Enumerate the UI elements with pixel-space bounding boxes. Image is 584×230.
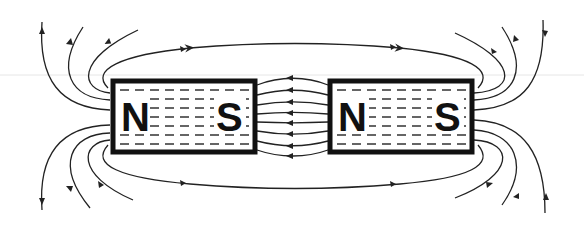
pole-label-south: S: [216, 95, 243, 139]
pole-label-north: N: [338, 95, 367, 139]
bar-magnet-left: N S: [113, 81, 255, 152]
pole-label-north: N: [121, 95, 150, 139]
pole-label-south: S: [434, 95, 461, 139]
bar-magnet-right: N S: [330, 81, 472, 152]
field-lines-gap: [257, 75, 328, 159]
magnetic-field-diagram: N S N S: [0, 0, 584, 230]
